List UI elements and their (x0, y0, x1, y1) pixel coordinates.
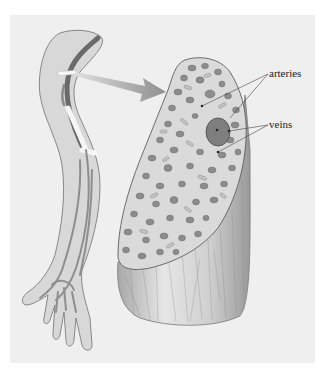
anatomy-illustration (0, 0, 327, 371)
large-vein (206, 118, 230, 146)
label-veins: veins (269, 119, 292, 130)
zoom-arrow (76, 72, 166, 102)
label-arteries: arteries (269, 68, 301, 79)
